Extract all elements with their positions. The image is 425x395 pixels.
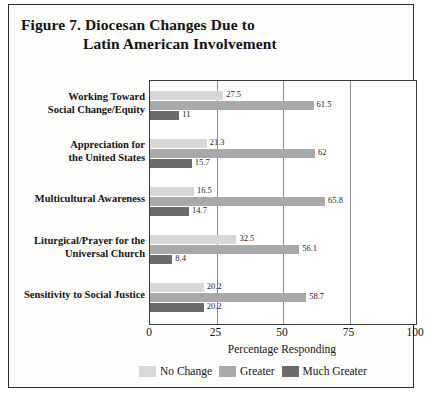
bar-much-greater [150,207,189,216]
bar-group: 27.561.511 [150,91,416,121]
legend-swatch [139,366,156,377]
x-tick-label: 100 [406,325,423,339]
bar-much-greater [150,159,192,168]
category-label-line: Multicultural Awareness [13,193,145,206]
bar-group: 20.258.720.2 [150,283,416,313]
x-tick-label: 50 [276,325,288,339]
bar-no-change [150,235,236,244]
bar-group: 21.36215.7 [150,139,416,169]
bar-value-label: 65.8 [325,195,343,206]
x-axis-ticks: 0255075100 [149,325,415,341]
bar-value-label: 16.5 [194,185,212,196]
bar-greater [150,101,314,110]
chart-legend: No ChangeGreaterMuch Greater [139,365,367,378]
category-label-line: the United States [13,152,145,165]
legend-label: Greater [240,365,274,378]
legend-swatch [282,366,299,377]
bar-value-label: 27.5 [223,89,241,100]
bar-group: 16.565.814.7 [150,187,416,217]
bar-no-change [150,187,194,196]
bar-value-label: 61.5 [314,99,332,110]
figure-title-line-2: Latin American Involvement [21,34,401,53]
bar-row: 15.7 [150,159,416,168]
category-label-line: Universal Church [13,248,145,261]
bar-value-label: 32.5 [236,233,254,244]
bar-no-change [150,91,223,100]
category-label: Multicultural Awareness [13,193,145,206]
plot-area: 27.561.51121.36215.716.565.814.732.556.1… [149,80,417,325]
bar-row: 21.3 [150,139,416,148]
x-tick-label: 0 [146,325,152,339]
bar-value-label: 62 [315,147,327,158]
bar-value-label: 21.3 [207,137,225,148]
legend-label: No Change [160,365,212,378]
category-label-line: Liturgical/Prayer for the [13,235,145,248]
legend-item: No Change [139,365,212,378]
bar-value-label: 8.4 [172,253,186,264]
bar-no-change [150,139,207,148]
figure-frame: Figure 7. Diocesan Changes Due to Latin … [8,4,414,388]
figure-title-line-1: Figure 7. Diocesan Changes Due to [21,15,401,34]
bar-value-label: 15.7 [192,157,210,168]
bar-row: 27.5 [150,91,416,100]
category-label: Working TowardSocial Change/Equity [13,91,145,116]
bar-value-label: 56.1 [299,243,317,254]
bar-much-greater [150,303,204,312]
bar-row: 8.4 [150,255,416,264]
bar-value-label: 14.7 [189,205,207,216]
bar-value-label: 20.2 [204,281,222,292]
bar-row: 58.7 [150,293,416,302]
bar-value-label: 11 [179,109,190,120]
bar-row: 16.5 [150,187,416,196]
bar-group: 32.556.18.4 [150,235,416,265]
x-tick-label: 25 [210,325,222,339]
legend-swatch [219,366,236,377]
bar-row: 32.5 [150,235,416,244]
category-label: Liturgical/Prayer for theUniversal Churc… [13,235,145,260]
category-label: Sensitivity to Social Justice [13,289,145,302]
category-label: Appreciation forthe United States [13,139,145,164]
legend-item: Greater [219,365,274,378]
legend-item: Much Greater [282,365,367,378]
x-axis-title: Percentage Responding [149,343,415,355]
bar-row: 20.2 [150,283,416,292]
figure-title: Figure 7. Diocesan Changes Due to Latin … [21,15,401,53]
category-axis-labels: Working TowardSocial Change/EquityApprec… [9,80,145,323]
category-label-line: Appreciation for [13,139,145,152]
bar-greater [150,149,315,158]
bar-much-greater [150,255,172,264]
bar-much-greater [150,111,179,120]
bar-greater [150,293,306,302]
bar-greater [150,197,325,206]
bar-row: 14.7 [150,207,416,216]
x-tick-label: 75 [343,325,355,339]
bar-value-label: 20.2 [204,301,222,312]
legend-label: Much Greater [303,365,367,378]
bar-no-change [150,283,204,292]
category-label-line: Social Change/Equity [13,104,145,117]
bar-row: 62 [150,149,416,158]
category-label-line: Working Toward [13,91,145,104]
bar-row: 11 [150,111,416,120]
bar-row: 56.1 [150,245,416,254]
bar-value-label: 58.7 [306,291,324,302]
category-label-line: Sensitivity to Social Justice [13,289,145,302]
bar-row: 20.2 [150,303,416,312]
